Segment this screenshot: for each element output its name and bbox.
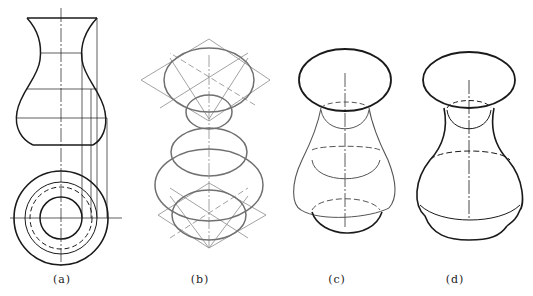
panel-c-label: (c): [328, 273, 346, 286]
vase-drawing: [0, 0, 533, 296]
panel-a-top-view: [10, 171, 122, 265]
panel-d-label: (d): [446, 273, 465, 286]
panel-d-isometric-final: [417, 52, 523, 240]
panel-c-isometric-outline: [294, 49, 395, 233]
panel-a-label: (a): [53, 273, 71, 286]
panel-a-front-view: [16, 8, 107, 268]
panel-b-construction: [141, 39, 270, 248]
panel-b-label: (b): [191, 273, 210, 286]
